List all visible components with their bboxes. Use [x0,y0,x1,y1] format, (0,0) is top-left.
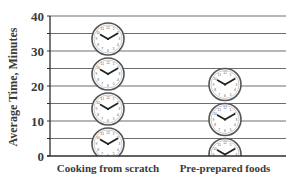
svg-text:11: 11 [101,62,105,66]
svg-text:8: 8 [97,43,99,47]
svg-text:6: 6 [107,119,109,123]
svg-text:1: 1 [113,27,115,31]
svg-text:6: 6 [224,129,226,133]
svg-text:1: 1 [113,97,115,101]
svg-text:7: 7 [101,117,103,121]
svg-text:12: 12 [223,106,227,110]
svg-text:10: 10 [213,77,217,81]
svg-text:11: 11 [101,97,105,101]
svg-text:9: 9 [96,37,98,41]
svg-text:6: 6 [107,84,109,88]
svg-text:9: 9 [213,118,215,122]
svg-text:10: 10 [213,147,217,151]
svg-text:8: 8 [97,78,99,82]
svg-text:5: 5 [113,82,115,86]
y-tick-label: 10 [31,114,44,129]
svg-text:7: 7 [218,128,220,132]
svg-text:8: 8 [214,88,216,92]
svg-text:12: 12 [106,96,110,100]
svg-text:4: 4 [234,88,236,92]
category-label: Cooking from scratch [57,162,159,174]
svg-text:12: 12 [106,131,110,135]
y-tick-label: 30 [31,44,44,59]
svg-text:5: 5 [230,93,232,97]
y-tick-label: 0 [38,149,45,164]
svg-text:12: 12 [223,141,227,145]
svg-text:12: 12 [106,61,110,65]
svg-text:9: 9 [96,107,98,111]
svg-text:7: 7 [101,47,103,51]
svg-text:4: 4 [117,43,119,47]
svg-text:8: 8 [214,123,216,127]
svg-text:10: 10 [96,66,100,70]
y-tick-label: 40 [31,9,44,24]
svg-text:3: 3 [119,72,121,76]
svg-text:5: 5 [230,128,232,132]
svg-text:4: 4 [117,148,119,152]
svg-text:9: 9 [96,72,98,76]
svg-text:10: 10 [213,112,217,116]
svg-text:10: 10 [96,101,100,105]
svg-text:1: 1 [230,143,232,147]
clock-stack: 1234567891011121234567891011121234567891… [92,23,124,160]
svg-text:11: 11 [218,143,222,147]
y-axis-title: Average Time, Minutes [6,27,20,146]
svg-text:12: 12 [106,26,110,30]
svg-text:10: 10 [96,31,100,35]
gridlines [50,16,286,139]
svg-text:6: 6 [224,94,226,98]
svg-text:5: 5 [113,47,115,51]
svg-text:6: 6 [107,49,109,53]
svg-text:11: 11 [101,27,105,31]
svg-text:9: 9 [213,83,215,87]
y-tick-labels: 010203040 [31,9,44,164]
svg-text:7: 7 [218,93,220,97]
svg-text:3: 3 [236,118,238,122]
svg-text:10: 10 [96,136,100,140]
clock-icon: 123456789101112 [92,23,124,55]
svg-text:11: 11 [218,73,222,77]
svg-text:5: 5 [113,117,115,121]
category-label: Pre-prepared foods [180,162,271,174]
category-labels: Cooking from scratchPre-prepared foods [57,162,271,174]
svg-text:9: 9 [96,142,98,146]
svg-text:11: 11 [101,132,105,136]
svg-text:4: 4 [117,113,119,117]
clock-icon: 123456789101112 [92,93,124,125]
clock-icon: 123456789101112 [92,58,124,90]
svg-text:8: 8 [97,113,99,117]
svg-text:3: 3 [119,107,121,111]
clock-icon: 123456789101112 [209,69,241,101]
svg-text:11: 11 [218,108,222,112]
clock-icon: 123456789101112 [92,128,124,160]
svg-text:7: 7 [101,82,103,86]
svg-text:8: 8 [97,148,99,152]
clock-icon: 123456789101112 [209,104,241,136]
svg-text:1: 1 [230,108,232,112]
svg-text:4: 4 [234,123,236,127]
svg-text:3: 3 [119,142,121,146]
clock-stacks: 1234567891011121234567891011121234567891… [92,23,241,171]
svg-text:1: 1 [113,62,115,66]
clock-stack: 1234567891011121234567891011121234567891… [209,69,241,171]
svg-text:4: 4 [117,78,119,82]
svg-text:1: 1 [113,132,115,136]
pictograph-chart: 1234567891011121234567891011121234567891… [0,0,301,180]
svg-text:1: 1 [230,73,232,77]
y-tick-label: 20 [31,79,44,94]
svg-text:12: 12 [223,71,227,75]
svg-text:3: 3 [236,83,238,87]
svg-text:3: 3 [119,37,121,41]
